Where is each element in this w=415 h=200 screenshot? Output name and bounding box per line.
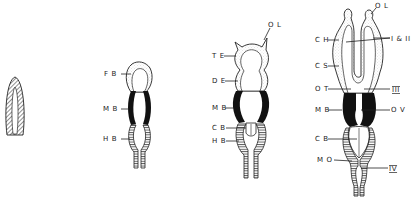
midbrain-left-wall bbox=[233, 91, 245, 123]
stage-3-five-vesicles: O L T E D E M B C B H B bbox=[211, 21, 281, 178]
label-mb: M B bbox=[212, 104, 227, 112]
label-iii: III bbox=[392, 86, 400, 94]
label-cb: C B bbox=[315, 135, 329, 143]
label-iv: IV bbox=[389, 165, 397, 173]
label-mo: M O bbox=[317, 156, 333, 164]
label-ov: O V bbox=[391, 106, 405, 114]
stage-1-neural-tube bbox=[6, 77, 24, 135]
label-mb: M B bbox=[103, 105, 118, 113]
label-cb: C B bbox=[212, 124, 226, 132]
brain-development-diagram: F B M B H B O L T E D E M B C B H B bbox=[0, 0, 415, 200]
label-ot: O T bbox=[315, 85, 329, 93]
label-ol: O L bbox=[375, 2, 388, 10]
stage-4-mature-brain: O L C H I & II C S O T III M B O V C B M… bbox=[315, 2, 411, 196]
hindbrain-left-wall bbox=[129, 125, 138, 168]
label-hb: H B bbox=[103, 135, 117, 143]
label-hb: H B bbox=[212, 137, 226, 145]
label-fb: F B bbox=[104, 70, 117, 78]
label-mb: M B bbox=[315, 106, 330, 114]
hindbrain-right-wall bbox=[141, 125, 150, 168]
midbrain-right-wall bbox=[257, 91, 269, 123]
label-ol: O L bbox=[268, 21, 281, 29]
midbrain-left-wall bbox=[343, 93, 358, 127]
label-cs: C S bbox=[315, 62, 328, 70]
label-ch: C H bbox=[315, 36, 329, 44]
stage-2-three-vesicles: F B M B H B bbox=[103, 62, 152, 168]
midbrain-right-wall bbox=[143, 91, 151, 125]
label-i-ii: I & II bbox=[391, 35, 411, 43]
label-de: D E bbox=[212, 77, 226, 85]
midbrain-left-wall bbox=[128, 91, 136, 125]
label-te: T E bbox=[211, 52, 225, 60]
